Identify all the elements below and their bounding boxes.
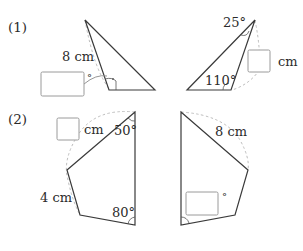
angle-mark-bottom [181,217,189,223]
side-length-label: 4 cm [40,190,72,205]
answer-box-angle-1[interactable] [41,72,84,96]
degree-unit: ° [87,72,92,83]
answer-box-angle-2[interactable] [186,192,218,215]
congruent-figures-diagram: (1) 8 cm ° 25° 110° cm (2) 50° 80° 4 cm … [0,0,303,251]
top-angle-label: 50° [114,123,137,138]
answer-box-length-1[interactable] [248,50,270,72]
triangle-shape [85,20,155,90]
side-length-label: 8 cm [62,49,94,64]
degree-unit: ° [222,191,227,202]
top-angle-label: 25° [223,15,246,30]
cm-unit: cm [278,54,298,69]
problem-1-label: (1) [8,19,27,35]
side-length-label: 8 cm [215,124,247,139]
left-angle-label: 110° [205,73,236,88]
answer-box-length-2[interactable] [57,118,79,140]
bottom-angle-label: 80° [112,205,135,220]
angle-mark-top [128,118,135,121]
angle-dot [112,78,114,80]
cm-unit: cm [84,122,104,137]
problem-2-label: (2) [8,111,27,127]
